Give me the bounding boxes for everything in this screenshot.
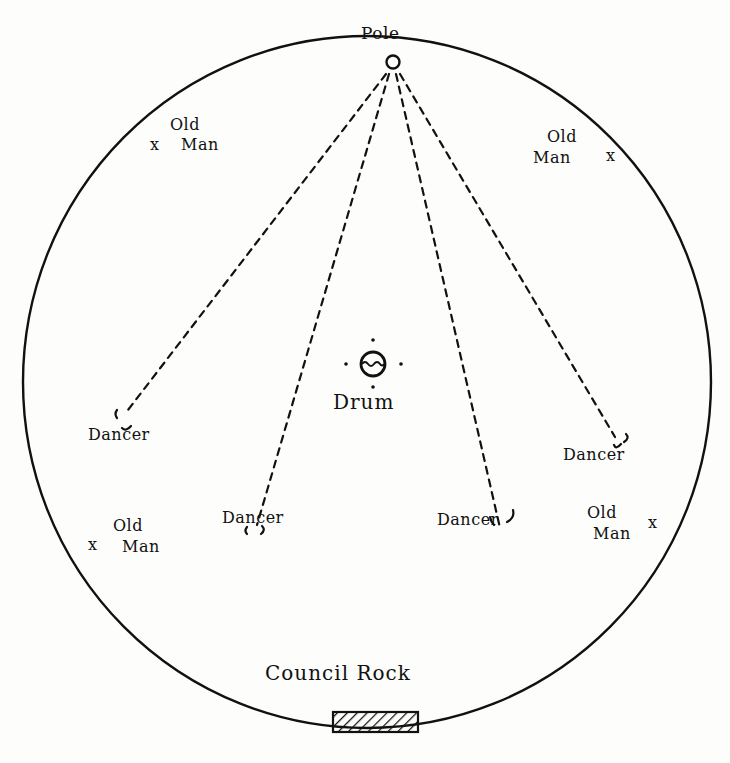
rope-to-dancer-center-left [257,74,389,525]
old-man-lower-right-line1: Old [587,503,617,522]
rope-to-dancer-left [128,74,386,410]
old-man-lower-left-line1: Old [113,516,143,535]
pole-icon [387,56,400,69]
drum-label: Drum [333,393,394,412]
council-rock-icon [333,712,418,732]
old-man-lower-right-line2: Man [593,524,631,543]
dancer-center-left-marker [246,526,264,534]
rope-to-dancer-right [400,74,615,437]
old-man-upper-left-line1: Old [170,115,200,134]
drum-icon [344,338,403,389]
dancer-label-center-left: Dancer [222,508,284,527]
old-man-upper-left-line2: Man [181,135,219,154]
old-man-upper-right-line1: Old [547,127,577,146]
old-man-upper-left-x-marker: x [150,135,160,154]
pole-label: Pole [361,24,399,43]
dancer-label-right: Dancer [563,445,625,464]
old-man-lower-left-x-marker: x [88,535,98,554]
council-rock-label: Council Rock [265,664,411,683]
rope-to-dancer-center-right [396,74,500,528]
old-man-lower-right-x-marker: x [648,513,658,532]
old-man-lower-left-line2: Man [122,537,160,556]
old-man-upper-right-line2: Man [533,148,571,167]
dance-ground-boundary [23,36,711,728]
diagram-canvas [0,0,730,763]
old-man-upper-right-x-marker: x [606,146,616,165]
dancer-label-center-right: Dancer [437,510,499,529]
dancer-label-left: Dancer [88,425,150,444]
